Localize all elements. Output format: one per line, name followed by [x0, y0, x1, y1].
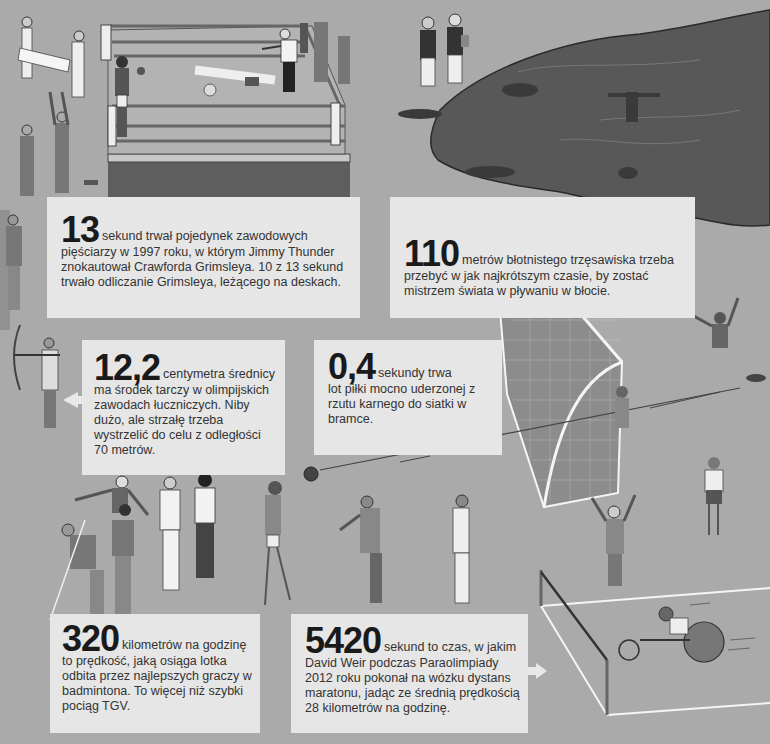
fact-body-text: przebyć w jak najkrótszym czasie, by zos… [404, 269, 681, 299]
fact-lead-text: sekundy trwa [378, 366, 452, 380]
fact-box-boxing: 13sekund trwał pojedynek zawodowych pięś… [47, 197, 360, 318]
fact-lead-text: sekund to czas, w jakim [384, 640, 516, 654]
fact-body-text: ma środek tarczy w olimpijskich zawodach… [94, 383, 275, 458]
mud-bog-illustration [398, 10, 770, 226]
fact-body-text: to prędkość, jaką osiąga lotka odbita pr… [62, 654, 252, 714]
fact-lead-text: centymetra średnicy [163, 367, 275, 381]
fact-lead-text: kilometrów na godzinę [122, 638, 246, 652]
fact-body-text: lot piłki mocno uderzonej z rzutu karneg… [328, 382, 494, 427]
fact-box-archery: 12,2centymetra średnicy ma środek tarczy… [82, 340, 285, 475]
fact-body-text: David Weir podczas Paraolimpiady 2012 ro… [305, 656, 520, 716]
boxing-ring-illustration [18, 17, 350, 200]
fact-box-bog: 110metrów błotnistego trzęsawiska trzeba… [390, 197, 695, 318]
fact-box-badminton: 320kilometrów na godzinę to prędkość, ja… [50, 614, 260, 733]
infographic-canvas: 13sekund trwał pojedynek zawodowych pięś… [0, 0, 770, 744]
fact-number: 13 [61, 209, 99, 250]
wheelchair-race-illustration [541, 570, 770, 715]
fact-number: 5420 [305, 620, 381, 661]
fact-body-text: pięściarzy w 1997 roku, w którym Jimmy T… [61, 245, 348, 290]
fact-number: 110 [404, 233, 459, 274]
fact-box-wheelchair: 5420sekund to czas, w jakim David Weir p… [291, 614, 528, 733]
fact-lead-text: sekund trwał pojedynek zawodowych [102, 229, 308, 243]
fact-box-penalty: 0,4sekundy trwa lot piłki mocno uderzone… [314, 340, 502, 455]
fact-number: 12,2 [94, 347, 160, 388]
fact-lead-text: metrów błotnistego trzęsawiska trzeba [462, 253, 674, 267]
arrow-right-icon [536, 663, 547, 679]
fact-number: 320 [62, 618, 119, 659]
fact-number: 0,4 [328, 346, 375, 387]
